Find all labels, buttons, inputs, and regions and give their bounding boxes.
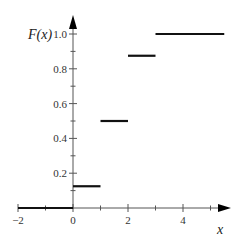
- x-tick-label: −2: [12, 214, 24, 226]
- step-function-chart: −20240.20.40.60.81.0 F(x) x: [0, 0, 240, 244]
- y-tick-label: 0.2: [53, 167, 67, 179]
- ticks: [18, 34, 211, 212]
- tick-labels: −20240.20.40.60.81.0: [12, 28, 186, 226]
- y-tick-label: 0.4: [53, 132, 67, 144]
- axes: [18, 15, 231, 212]
- x-tick-label: 4: [180, 214, 186, 226]
- y-tick-label: 1.0: [53, 28, 67, 40]
- x-axis-title: x: [216, 222, 224, 237]
- x-tick-label: 0: [70, 214, 76, 226]
- y-axis-title: F(x): [27, 27, 52, 43]
- x-tick-label: 2: [125, 214, 131, 226]
- y-tick-label: 0.8: [53, 63, 67, 75]
- y-tick-label: 0.6: [53, 98, 67, 110]
- y-axis-arrow-icon: [69, 15, 77, 29]
- x-axis-arrow-icon: [218, 204, 231, 212]
- step-segments: [18, 34, 224, 208]
